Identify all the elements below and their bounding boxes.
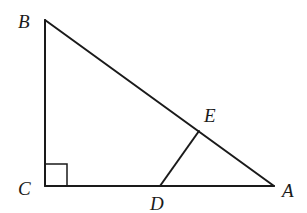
label-b: B bbox=[18, 11, 30, 32]
label-d: D bbox=[149, 193, 164, 213]
label-e: E bbox=[203, 105, 216, 126]
right-angle-marker-icon bbox=[45, 164, 67, 186]
label-a: A bbox=[280, 180, 294, 201]
triangle-diagram: B C A D E bbox=[0, 0, 307, 213]
segment-de bbox=[160, 131, 199, 186]
label-c: C bbox=[18, 178, 31, 199]
segment-ab bbox=[45, 20, 274, 186]
